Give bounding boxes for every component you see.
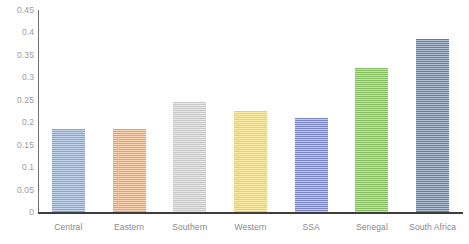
bar-slot [99, 10, 160, 212]
y-tick-label: 0.4 [0, 27, 34, 37]
bar-slot [220, 10, 281, 212]
bar[interactable] [113, 129, 146, 212]
bar-series [38, 10, 463, 212]
bar-chart: 0.450.40.350.30.250.20.150.10.050 Centra… [0, 0, 469, 244]
x-category-label: Eastern [114, 222, 144, 232]
bar-slot [159, 10, 220, 212]
x-category-label: Central [54, 222, 82, 232]
x-label-slot: Senegal [342, 216, 403, 234]
bar-slot [402, 10, 463, 212]
bar[interactable] [52, 129, 85, 212]
x-category-label: South Africa [409, 222, 456, 232]
x-category-label: SSA [303, 222, 320, 232]
y-tick-label: 0.1 [0, 162, 34, 172]
bar[interactable] [234, 111, 267, 212]
bar[interactable] [355, 68, 388, 212]
bar-slot [342, 10, 403, 212]
y-tick-label: 0.2 [0, 117, 34, 127]
bar[interactable] [416, 39, 449, 212]
bar[interactable] [173, 102, 206, 212]
x-label-slot: Eastern [99, 216, 160, 234]
x-category-label: Senegal [356, 222, 388, 232]
y-tick-label: 0.3 [0, 72, 34, 82]
x-axis-category-labels: CentralEasternSouthernWesternSSASenegalS… [38, 216, 463, 234]
x-category-label: Southern [172, 222, 207, 232]
bar[interactable] [295, 118, 328, 212]
y-tick-label: 0.35 [0, 50, 34, 60]
y-axis-tick-labels: 0.450.40.350.30.250.20.150.10.050 [0, 0, 34, 244]
y-tick-label: 0.05 [0, 185, 34, 195]
x-axis-baseline [38, 212, 463, 214]
x-label-slot: Southern [159, 216, 220, 234]
x-label-slot: Western [220, 216, 281, 234]
x-category-label: Western [234, 222, 266, 232]
bar-slot [281, 10, 342, 212]
x-label-slot: Central [38, 216, 99, 234]
y-tick-label: 0 [0, 207, 34, 217]
x-label-slot: SSA [281, 216, 342, 234]
x-label-slot: South Africa [402, 216, 463, 234]
y-tick-label: 0.25 [0, 95, 34, 105]
y-tick-label: 0.45 [0, 5, 34, 15]
y-tick-label: 0.15 [0, 140, 34, 150]
bar-slot [38, 10, 99, 212]
